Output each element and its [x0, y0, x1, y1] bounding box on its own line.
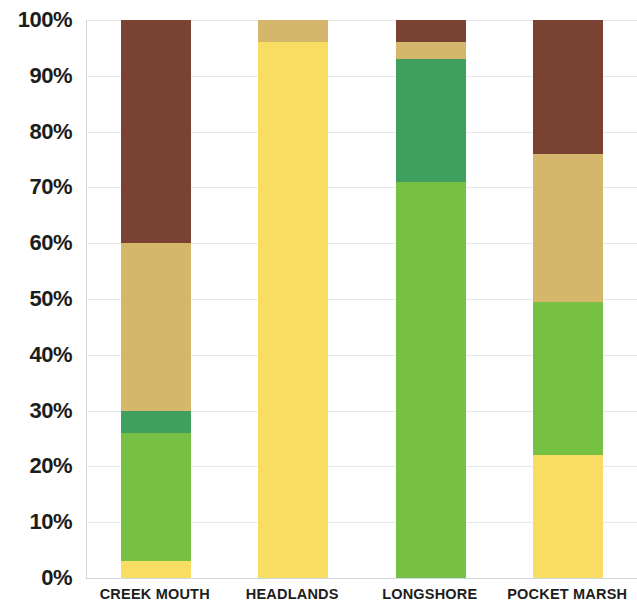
bar-group[interactable]	[533, 20, 603, 578]
bar-segment-tan[interactable]	[258, 20, 328, 42]
y-tick-label: 60%	[29, 230, 72, 256]
bar-segment-tan[interactable]	[396, 42, 466, 59]
y-tick-label: 30%	[29, 398, 72, 424]
bar-segment-yellow[interactable]	[533, 455, 603, 578]
y-tick-label: 90%	[29, 63, 72, 89]
y-tick-label: 50%	[29, 286, 72, 312]
bar-stack	[533, 20, 603, 578]
bar-segment-brown[interactable]	[121, 20, 191, 243]
y-tick-label: 10%	[29, 509, 72, 535]
x-tick-label: CREEK MOUTH	[100, 586, 210, 602]
bar-segment-dark-green[interactable]	[396, 59, 466, 182]
bar-group[interactable]	[258, 20, 328, 578]
y-tick-label: 100%	[18, 7, 72, 33]
y-axis: 0%10%20%30%40%50%60%70%80%90%100%	[0, 0, 86, 609]
bar-group[interactable]	[121, 20, 191, 578]
plot-area	[86, 20, 637, 579]
bar-segment-light-green[interactable]	[396, 182, 466, 578]
bar-stack	[121, 20, 191, 578]
x-axis: CREEK MOUTHHEADLANDSLONGSHOREPOCKET MARS…	[86, 586, 636, 609]
bar-segment-dark-green[interactable]	[121, 411, 191, 433]
bar-segment-light-green[interactable]	[533, 302, 603, 455]
x-tick-label: LONGSHORE	[382, 586, 477, 602]
y-tick-label: 0%	[41, 565, 72, 591]
bar-segment-yellow[interactable]	[258, 42, 328, 578]
y-tick-label: 70%	[29, 174, 72, 200]
bar-stack	[396, 20, 466, 578]
bar-segment-tan[interactable]	[533, 154, 603, 302]
bar-group[interactable]	[396, 20, 466, 578]
y-tick-label: 20%	[29, 453, 72, 479]
bar-segment-light-green[interactable]	[121, 433, 191, 561]
x-tick-label: HEADLANDS	[246, 586, 339, 602]
y-tick-label: 80%	[29, 119, 72, 145]
x-tick-label: POCKET MARSH	[507, 586, 627, 602]
bar-segment-yellow[interactable]	[121, 561, 191, 578]
bar-segment-tan[interactable]	[121, 243, 191, 410]
bars-layer	[87, 20, 637, 578]
bar-segment-brown[interactable]	[533, 20, 603, 154]
bar-stack	[258, 20, 328, 578]
bar-segment-brown[interactable]	[396, 20, 466, 42]
y-tick-label: 40%	[29, 342, 72, 368]
